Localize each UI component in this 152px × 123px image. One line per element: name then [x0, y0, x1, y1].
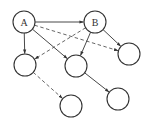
- edge-c-to-f: [33, 72, 62, 98]
- edge-a-to-d: [32, 29, 67, 58]
- edge-b-to-e: [103, 30, 121, 47]
- node-a: A: [13, 11, 35, 33]
- nodes-layer: AB: [13, 11, 140, 117]
- node-g: [107, 88, 129, 110]
- node-circle: [118, 43, 140, 65]
- node-f: [60, 95, 82, 117]
- node-circle: [60, 95, 82, 117]
- node-e: [118, 43, 140, 65]
- node-circle: [14, 54, 36, 76]
- graph-diagram: AB: [0, 0, 152, 123]
- node-circle: [107, 88, 129, 110]
- node-d: [65, 55, 87, 77]
- node-label: A: [20, 17, 28, 28]
- edge-a-to-e: [35, 25, 118, 50]
- node-circle: [65, 55, 87, 77]
- edge-d-to-g: [85, 73, 109, 92]
- node-c: [14, 54, 36, 76]
- edge-b-to-c: [35, 28, 86, 59]
- node-b: B: [84, 11, 106, 33]
- edge-b-to-d: [81, 32, 91, 55]
- node-label: B: [92, 17, 99, 28]
